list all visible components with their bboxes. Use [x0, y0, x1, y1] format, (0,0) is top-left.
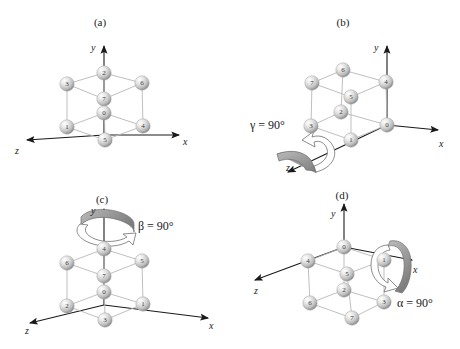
panel-d-scene: 0 4 1 5 2 — [230, 175, 460, 349]
node-sphere: 1 — [136, 297, 150, 311]
node-sphere: 4 — [301, 254, 315, 268]
axis-label-z: z — [25, 325, 29, 336]
node-sphere: 0 — [337, 240, 351, 254]
axis-x-line — [104, 305, 208, 318]
node-sphere: 3 — [304, 119, 318, 133]
node-sphere: 4 — [136, 119, 150, 133]
node-sphere: 2 — [97, 66, 111, 80]
node-sphere: 3 — [377, 295, 391, 309]
rotation-label-beta: β = 90° — [138, 219, 174, 234]
panel-c-axes — [30, 209, 208, 323]
node-sphere: 0 — [380, 118, 394, 132]
node-sphere: 6 — [336, 63, 350, 77]
node-sphere: 6 — [135, 76, 149, 90]
panel-b: (b) — [230, 0, 460, 174]
panel-a: (a) — [0, 0, 230, 174]
rotation-label-alpha: α = 90° — [397, 296, 433, 311]
node-sphere: 7 — [97, 269, 111, 283]
figure-four-panel-cube-rotations: (a) — [0, 0, 460, 349]
axis-label-y: y — [331, 208, 335, 219]
panel-a-scene: 2 3 6 7 0 — [0, 0, 230, 174]
node-sphere: 0 — [97, 285, 111, 299]
panel-c: (c) — [0, 175, 230, 349]
axis-label-z: z — [15, 145, 19, 156]
axis-label-y: y — [374, 42, 378, 53]
node-sphere: 6 — [303, 296, 317, 310]
node-sphere: 2 — [337, 283, 351, 297]
axis-label-y: y — [91, 205, 95, 216]
axis-label-z: z — [286, 162, 290, 173]
panel-c-nodes: 4 6 5 7 0 — [60, 242, 150, 327]
node-sphere: 6 — [60, 256, 74, 270]
axis-label-z: z — [254, 285, 258, 296]
panel-c-cube-edges — [67, 249, 143, 320]
axis-label-y: y — [91, 42, 95, 53]
node-sphere: 3 — [98, 313, 112, 327]
axis-x-line — [387, 125, 438, 130]
node-sphere: 5 — [344, 90, 358, 104]
node-sphere: 1 — [60, 120, 74, 134]
node-sphere: 7 — [345, 311, 359, 325]
axis-label-x: x — [209, 320, 213, 331]
node-sphere: 7 — [97, 92, 111, 106]
panel-b-cube-edges — [311, 70, 387, 140]
node-sphere: 2 — [334, 105, 348, 119]
node-sphere: 0 — [97, 106, 111, 120]
rotation-label-gamma: γ = 90° — [250, 118, 285, 133]
panel-b-scene: 6 7 4 5 2 — [230, 0, 460, 174]
node-sphere: 5 — [98, 133, 112, 147]
panel-b-nodes: 6 7 4 5 2 — [304, 63, 394, 147]
node-sphere: 7 — [305, 76, 319, 90]
panel-d-rotation-arrow — [371, 241, 411, 293]
node-sphere: 4 — [97, 242, 111, 256]
node-sphere: 1 — [377, 253, 391, 267]
node-sphere: 3 — [60, 77, 74, 91]
node-sphere: 5 — [135, 254, 149, 268]
panel-b-axes — [288, 46, 438, 172]
axis-label-x: x — [413, 264, 417, 275]
panel-d: (d) — [230, 175, 460, 349]
axis-label-x: x — [439, 138, 443, 149]
node-sphere: 4 — [379, 75, 393, 89]
node-sphere: 1 — [344, 133, 358, 147]
node-sphere: 2 — [60, 299, 74, 313]
panel-c-scene: 4 6 5 7 0 — [0, 175, 230, 349]
node-sphere: 5 — [340, 267, 354, 281]
axis-label-x: x — [183, 136, 187, 147]
panel-c-rotation-arrow — [77, 209, 136, 246]
